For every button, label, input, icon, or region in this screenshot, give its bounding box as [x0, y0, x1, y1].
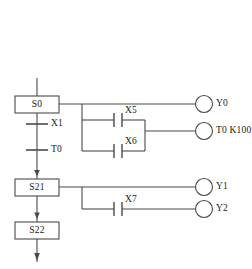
step-label-s0: S0 [15, 99, 59, 109]
coil-label-y0: Y0 [216, 98, 228, 108]
sfc-diagram-canvas: S0 S21 S22 X1 T0 X5 X6 X7 Y0 T0 K100 Y1 … [0, 0, 252, 269]
coil-label-y1: Y1 [216, 181, 228, 191]
coil-t0 [196, 123, 213, 140]
step-label-s22: S22 [15, 225, 59, 235]
coil-y1 [196, 179, 213, 196]
transition-label-t0: T0 [51, 144, 62, 154]
exit-flow-arrow [34, 253, 40, 261]
coil-y0 [196, 96, 213, 113]
coil-y2 [196, 201, 213, 218]
flow-arrow-to-s21 [34, 170, 40, 177]
contact-label-x7: X7 [125, 194, 137, 204]
contact-label-x6: X6 [125, 136, 137, 146]
transition-label-x1: X1 [51, 118, 63, 128]
step-label-s21: S21 [15, 182, 59, 192]
flow-arrow-to-s22 [34, 213, 40, 220]
coil-label-y2: Y2 [216, 203, 228, 213]
coil-label-t0: T0 K100 [216, 125, 251, 135]
contact-label-x5: X5 [125, 105, 137, 115]
